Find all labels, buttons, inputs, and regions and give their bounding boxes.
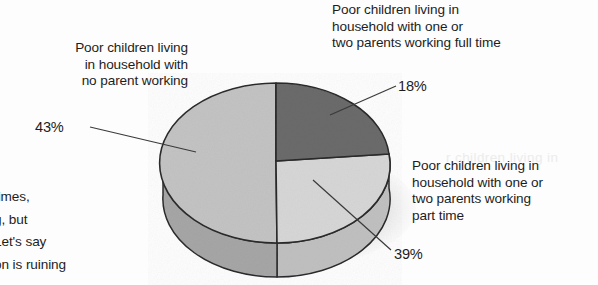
truncated-body-text: times, g, but Let's say on is ruining xyxy=(0,186,66,276)
slice-value-part-time: 39% xyxy=(394,246,423,262)
slice-label-part-time: Poor children living in household with o… xyxy=(412,158,594,224)
pie-slice-full-time xyxy=(276,83,389,161)
slice-value-full-time: 18% xyxy=(398,78,427,94)
slice-value-no-parent-working: 43% xyxy=(35,119,64,135)
slice-label-full-time: Poor children living in household with o… xyxy=(332,2,582,52)
pie-chart-figure: r children living in xyxy=(0,0,598,285)
slice-label-no-parent-working: Poor children living in household with n… xyxy=(6,40,188,90)
